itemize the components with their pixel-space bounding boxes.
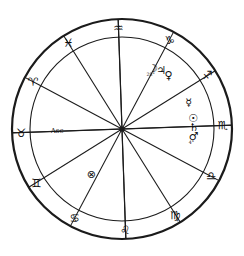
house-cusp-spoke bbox=[122, 48, 165, 129]
sign-glyph-aquarius: ♒ bbox=[113, 21, 123, 35]
sign-glyph-gemini: ♊ bbox=[31, 176, 41, 190]
house-cusp-spoke bbox=[79, 129, 122, 210]
sign-glyph-capricorn: ♑ bbox=[164, 33, 174, 47]
sign-glyph-leo: ♌ bbox=[120, 223, 130, 237]
point-glyph-part-of-fortune: ⊗ bbox=[87, 168, 96, 181]
house-cusp-spoke bbox=[41, 86, 122, 129]
sign-glyph-pisces: ♓ bbox=[63, 36, 73, 50]
planet-degree-moon: 28° bbox=[147, 72, 155, 77]
sign-glyph-scorpio: ♏ bbox=[218, 118, 228, 132]
sign-glyph-libra: ♎ bbox=[206, 169, 216, 183]
house-cusp-spoke bbox=[73, 51, 122, 129]
planet-glyph-mercury: ☿ bbox=[185, 96, 192, 109]
sign-glyph-taurus: ♉ bbox=[16, 126, 26, 140]
sign-glyph-sagittarius: ♐ bbox=[202, 68, 212, 82]
sign-glyph-virgo: ♍ bbox=[170, 208, 180, 222]
house-cusp-spoke bbox=[44, 129, 122, 178]
astrology-chart-wheel: ♒♓♈♉♊♋♌♍♎♏♐♑☽28°♃♀☿☉♄♂4°⊗Asc bbox=[0, 0, 244, 256]
point-label-ascendant: Asc bbox=[50, 127, 64, 135]
planet-degree-mars: 4° bbox=[189, 140, 194, 145]
wheel-center-hub bbox=[119, 126, 124, 131]
chart-canvas: ♒♓♈♉♊♋♌♍♎♏♐♑☽28°♃♀☿☉♄♂4°⊗Asc bbox=[0, 0, 244, 256]
sign-glyph-aries: ♈ bbox=[28, 75, 39, 89]
planet-glyph-venus: ♀ bbox=[165, 69, 173, 82]
house-cusp-spoke bbox=[122, 129, 171, 207]
sign-glyph-cancer: ♋ bbox=[69, 211, 79, 225]
